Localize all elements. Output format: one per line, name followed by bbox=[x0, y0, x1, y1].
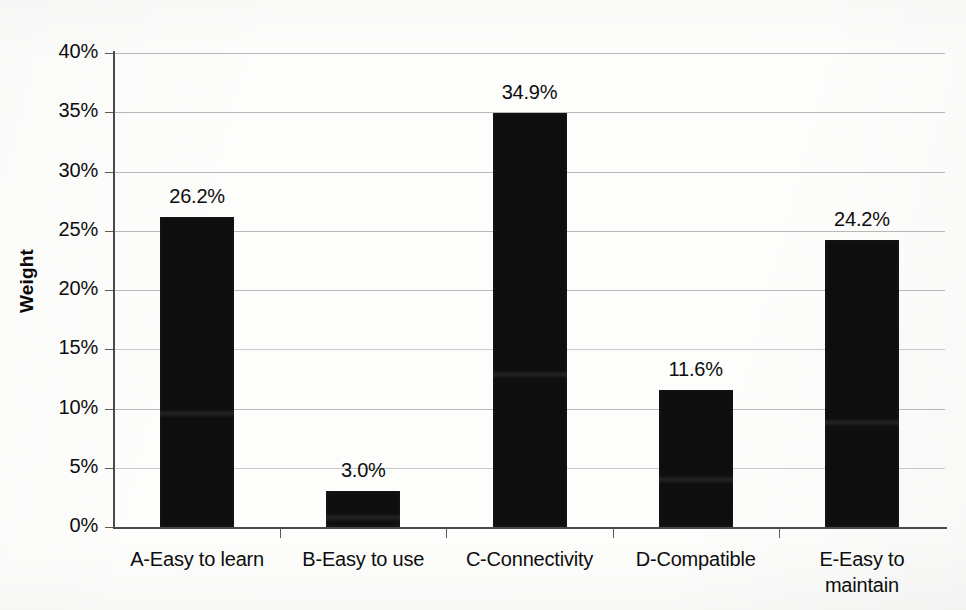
x-axis-line bbox=[114, 527, 947, 529]
bar-value-label: 11.6% bbox=[626, 358, 766, 381]
y-tick-label-15: 15% bbox=[38, 336, 98, 359]
y-tick-label-10: 10% bbox=[38, 396, 98, 419]
x-tick-label: D-Compatible bbox=[606, 546, 786, 572]
bar bbox=[160, 217, 234, 527]
y-tick-label-5: 5% bbox=[38, 455, 98, 478]
bar-chart-screenshot: Weight 0%5%10%15%20%25%30%35%40% A-Easy … bbox=[0, 0, 966, 610]
y-tick-label-25: 25% bbox=[38, 218, 98, 241]
plot-area bbox=[114, 53, 945, 527]
y-tick-label-40: 40% bbox=[38, 40, 98, 63]
y-tick-label-30: 30% bbox=[38, 159, 98, 182]
x-tick-mark bbox=[613, 528, 614, 538]
y-tick-label-0: 0% bbox=[38, 514, 98, 537]
bar bbox=[326, 491, 400, 527]
bar-value-label: 26.2% bbox=[127, 185, 267, 208]
x-tick-mark bbox=[280, 528, 281, 538]
x-tick-label: E-Easy to maintain bbox=[772, 546, 952, 598]
bar bbox=[493, 113, 567, 527]
x-tick-mark bbox=[779, 528, 780, 538]
bar-value-label: 34.9% bbox=[460, 81, 600, 104]
x-tick-label: A-Easy to learn bbox=[107, 546, 287, 572]
x-tick-label: C-Connectivity bbox=[440, 546, 620, 572]
y-tick-label-35: 35% bbox=[38, 99, 98, 122]
bar-value-label: 24.2% bbox=[792, 208, 932, 231]
y-axis-line bbox=[113, 51, 115, 529]
bar bbox=[825, 240, 899, 527]
y-axis-title: Weight bbox=[16, 231, 38, 331]
x-tick-label: B-Easy to use bbox=[273, 546, 453, 572]
gridline-40 bbox=[114, 53, 945, 54]
bar-value-label: 3.0% bbox=[293, 459, 433, 482]
y-tick-label-20: 20% bbox=[38, 277, 98, 300]
x-tick-mark bbox=[446, 528, 447, 538]
bar bbox=[659, 390, 733, 527]
